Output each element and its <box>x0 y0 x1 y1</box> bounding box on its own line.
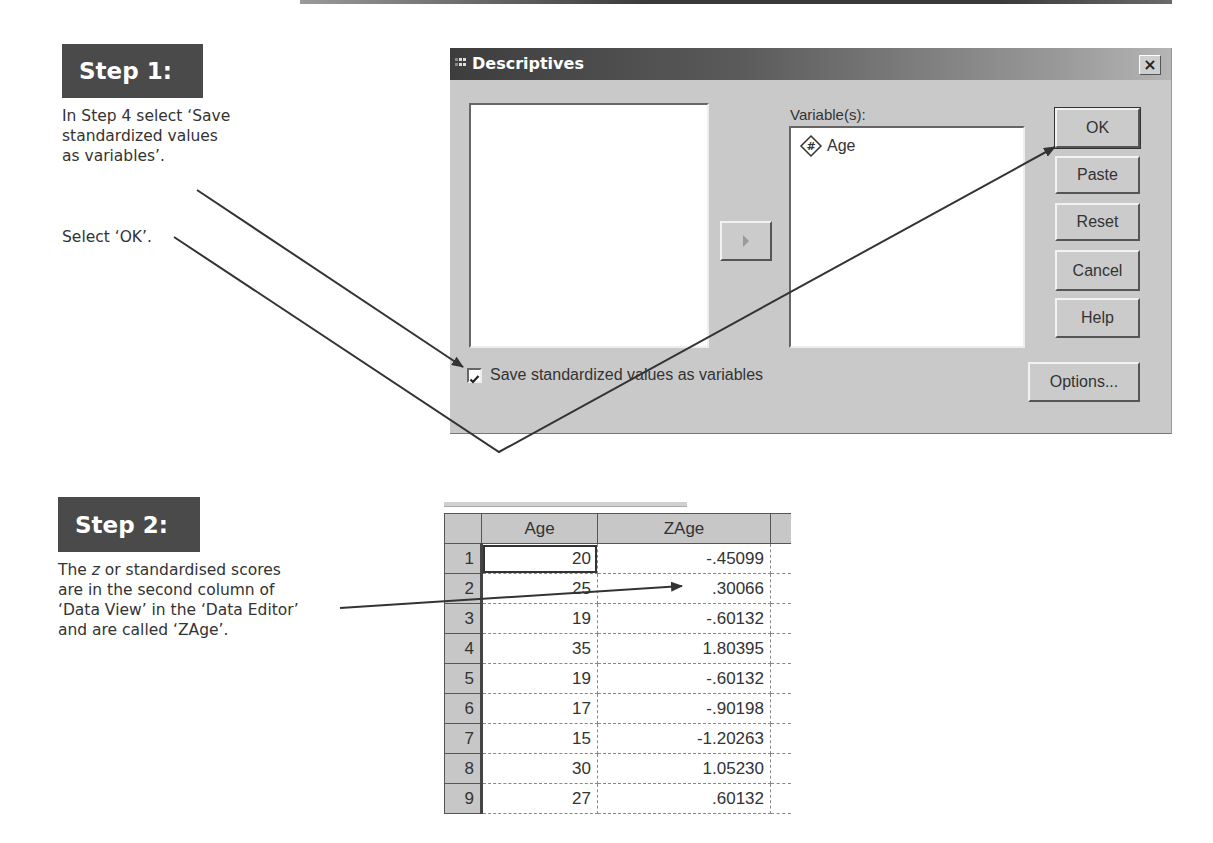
cell-empty[interactable] <box>771 604 791 634</box>
close-button[interactable]: × <box>1139 55 1161 75</box>
cell-empty[interactable] <box>771 754 791 784</box>
save-standardized-label[interactable]: Save standardized values as variables <box>490 366 763 384</box>
svg-text:#: # <box>806 140 815 153</box>
cell-age[interactable]: 30 <box>482 754 598 784</box>
variable-item-age[interactable]: # Age <box>799 134 855 158</box>
step2-instruction: The z or standardised scores are in the … <box>58 560 299 640</box>
step1-line-1: In Step 4 select ‘Save <box>62 106 230 126</box>
cell-empty[interactable] <box>771 664 791 694</box>
row-number[interactable]: 6 <box>445 694 482 724</box>
arrow-to-checkbox <box>197 190 463 367</box>
step2-line-3: ‘Data View’ in the ‘Data Editor’ <box>58 600 299 620</box>
row-number[interactable]: 1 <box>445 544 482 574</box>
cell-empty[interactable] <box>771 574 791 604</box>
cell-age[interactable]: 19 <box>482 604 598 634</box>
ok-button[interactable]: OK <box>1055 108 1140 148</box>
target-variable-list[interactable]: # Age <box>789 126 1025 348</box>
numeric-variable-icon: # <box>799 134 823 158</box>
paste-button[interactable]: Paste <box>1055 156 1140 194</box>
row-number[interactable]: 8 <box>445 754 482 784</box>
table-row: 6 17 -.90198 <box>445 694 791 724</box>
text-post: or standardised scores <box>100 561 281 579</box>
cell-empty[interactable] <box>771 544 791 574</box>
move-variable-button[interactable] <box>720 221 772 261</box>
grid-scrollbar[interactable] <box>444 502 687 507</box>
options-button[interactable]: Options... <box>1028 362 1140 402</box>
column-header-age[interactable]: Age <box>482 514 598 544</box>
text-pre: The <box>58 561 92 579</box>
data-view-grid: Age ZAge 1 20 -.45099 2 25 .30066 3 19 -… <box>444 513 791 814</box>
grid-header-row: Age ZAge <box>445 514 791 544</box>
page-top-rule <box>300 0 1172 4</box>
help-button[interactable]: Help <box>1055 298 1140 338</box>
cell-empty[interactable] <box>771 784 791 814</box>
step1-badge: Step 1: <box>62 44 203 98</box>
step2-line-2: are in the second column of <box>58 580 299 600</box>
source-variable-list[interactable] <box>469 103 709 348</box>
table-row: 3 19 -.60132 <box>445 604 791 634</box>
step2-line-1: The z or standardised scores <box>58 560 299 580</box>
table-row: 1 20 -.45099 <box>445 544 791 574</box>
cell-age[interactable]: 19 <box>482 664 598 694</box>
cell-age[interactable]: 15 <box>482 724 598 754</box>
cell-zage[interactable]: -.45099 <box>598 544 771 574</box>
cell-age[interactable]: 25 <box>482 574 598 604</box>
cell-zage[interactable]: -.60132 <box>598 664 771 694</box>
cell-empty[interactable] <box>771 724 791 754</box>
cell-zage[interactable]: -.60132 <box>598 604 771 634</box>
row-number[interactable]: 2 <box>445 574 482 604</box>
row-number[interactable]: 7 <box>445 724 482 754</box>
table-row: 2 25 .30066 <box>445 574 791 604</box>
cell-zage[interactable]: 1.05230 <box>598 754 771 784</box>
cancel-button[interactable]: Cancel <box>1055 250 1140 291</box>
cell-age[interactable]: 27 <box>482 784 598 814</box>
cell-age[interactable]: 35 <box>482 634 598 664</box>
right-arrow-icon <box>741 234 751 248</box>
spss-dialog-icon <box>454 56 468 70</box>
text-italic-z: z <box>92 561 100 579</box>
column-header-empty[interactable] <box>771 514 791 544</box>
step1-line-2: standardized values <box>62 126 230 146</box>
cell-empty[interactable] <box>771 634 791 664</box>
table-row: 5 19 -.60132 <box>445 664 791 694</box>
cell-zage[interactable]: -1.20263 <box>598 724 771 754</box>
cell-empty[interactable] <box>771 694 791 724</box>
cell-zage[interactable]: .60132 <box>598 784 771 814</box>
dialog-titlebar[interactable]: Descriptives × <box>450 48 1171 80</box>
dialog-title: Descriptives <box>472 54 584 73</box>
step1-instruction: In Step 4 select ‘Save standardized valu… <box>62 106 230 166</box>
table-row: 9 27 .60132 <box>445 784 791 814</box>
cell-age[interactable]: 17 <box>482 694 598 724</box>
grid-corner <box>445 514 482 544</box>
step2-line-4: and are called ‘ZAge’. <box>58 620 299 640</box>
checkmark-icon <box>469 374 480 385</box>
reset-button[interactable]: Reset <box>1055 203 1140 241</box>
close-icon: × <box>1143 55 1156 74</box>
step1-line-3: as variables’. <box>62 146 230 166</box>
variable-name: Age <box>827 137 855 155</box>
step2-badge: Step 2: <box>58 497 200 552</box>
row-number[interactable]: 3 <box>445 604 482 634</box>
descriptives-dialog: Descriptives × Variable(s): # Age OK Pas… <box>450 48 1172 434</box>
column-header-zage[interactable]: ZAge <box>598 514 771 544</box>
table-row: 8 30 1.05230 <box>445 754 791 784</box>
table-row: 4 35 1.80395 <box>445 634 791 664</box>
row-number[interactable]: 4 <box>445 634 482 664</box>
row-number[interactable]: 9 <box>445 784 482 814</box>
variables-label: Variable(s): <box>790 106 866 123</box>
step1-instruction-ok: Select ‘OK’. <box>62 227 152 247</box>
table-row: 7 15 -1.20263 <box>445 724 791 754</box>
row-number[interactable]: 5 <box>445 664 482 694</box>
cell-age[interactable]: 20 <box>482 544 598 574</box>
cell-zage[interactable]: -.90198 <box>598 694 771 724</box>
cell-zage[interactable]: .30066 <box>598 574 771 604</box>
cell-zage[interactable]: 1.80395 <box>598 634 771 664</box>
save-standardized-checkbox[interactable] <box>467 368 482 383</box>
